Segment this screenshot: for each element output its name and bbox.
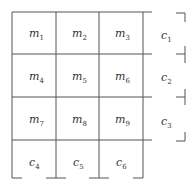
cell-c5: c5 [73, 156, 84, 171]
cell-m8: m8 [72, 113, 87, 128]
cell-m1: m1 [29, 27, 44, 42]
cell-m5: m5 [72, 70, 87, 85]
matrix-grid-diagram: m1 m2 m3 c1 m4 m5 m6 c2 m7 m8 m9 c3 c4 c… [0, 0, 194, 195]
cell-c3: c3 [161, 115, 172, 130]
cell-c4: c4 [29, 156, 40, 171]
cell-m4: m4 [29, 70, 44, 85]
cell-c6: c6 [116, 156, 127, 171]
right-brackets [176, 13, 185, 141]
cell-m6: m6 [115, 70, 130, 85]
cell-m2: m2 [72, 27, 87, 42]
cell-m9: m9 [115, 113, 130, 128]
cell-m7: m7 [29, 113, 44, 128]
cell-c1: c1 [161, 29, 172, 44]
cell-c2: c2 [161, 71, 172, 86]
cell-m3: m3 [115, 27, 130, 42]
cell-labels: m1 m2 m3 c1 m4 m5 m6 c2 m7 m8 m9 c3 c4 c… [29, 27, 172, 171]
